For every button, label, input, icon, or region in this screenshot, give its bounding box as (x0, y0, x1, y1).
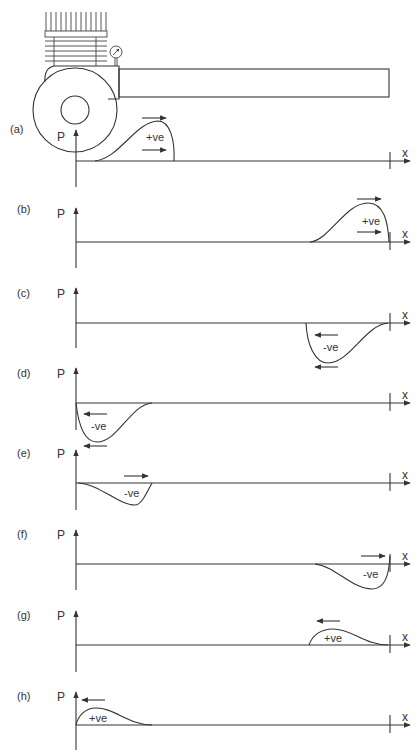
panel-e: (e) P x -ve (17, 447, 410, 510)
panel-a: (a) P x +ve (10, 118, 410, 187)
panel-g: (g) P x +ve (17, 609, 410, 672)
panel-label: (g) (17, 609, 30, 621)
y-axis-label: P (57, 447, 65, 461)
x-axis-label: x (402, 146, 408, 160)
x-axis-label: x (402, 388, 408, 402)
panel-b: (b) P x +ve (17, 199, 410, 268)
panel-h: (h) P x +ve (17, 690, 410, 750)
y-axis-label: P (57, 367, 65, 381)
y-axis-label: P (57, 528, 65, 542)
negative-wave (78, 483, 152, 505)
x-axis-label: x (402, 630, 408, 644)
x-axis-label: x (402, 710, 408, 724)
panel-label: (d) (17, 367, 30, 379)
y-axis-label: P (57, 287, 65, 301)
x-axis-label: x (402, 227, 408, 241)
negative-wave (315, 556, 390, 589)
panel-c: (c) P x -ve (17, 287, 410, 367)
panel-f: (f) P x -ve (17, 528, 410, 590)
wave-sign: +ve (362, 215, 380, 227)
wave-sign: -ve (363, 568, 378, 580)
wave-sign: -ve (323, 341, 338, 353)
negative-wave (306, 323, 388, 363)
wave-sign: -ve (91, 420, 106, 432)
flywheel-icon (33, 68, 117, 152)
negative-wave (76, 403, 152, 442)
panel-label: (c) (17, 287, 30, 299)
x-axis-label: x (402, 468, 408, 482)
wave-sign: +ve (89, 712, 107, 724)
y-axis-label: P (57, 609, 65, 623)
wave-sign: +ve (324, 632, 342, 644)
cylinder-icon (45, 37, 107, 66)
pressure-gauge-icon (110, 46, 122, 66)
y-axis-label: P (57, 690, 65, 704)
x-axis-label: x (402, 549, 408, 563)
panel-d: (d) P x -ve (17, 367, 410, 446)
panel-label: (b) (17, 203, 30, 215)
engine-apparatus (33, 12, 389, 152)
wave-sign: -ve (124, 487, 139, 499)
positive-wave (309, 629, 388, 645)
panel-label: (h) (17, 690, 30, 702)
y-axis-label: P (57, 130, 65, 144)
positive-wave (76, 708, 152, 725)
pressure-wave-diagram: (a) P x +ve (b) P x +ve (c) P x -ve (0, 0, 420, 752)
x-axis-label: x (402, 308, 408, 322)
panel-label: (f) (17, 528, 27, 540)
y-axis-label: P (57, 207, 65, 221)
panel-label: (a) (10, 123, 23, 135)
pipe (119, 69, 389, 97)
cooling-fins-icon (45, 12, 107, 37)
wave-sign: +ve (146, 131, 164, 143)
panel-label: (e) (17, 447, 30, 459)
